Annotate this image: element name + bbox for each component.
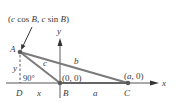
point-C-coordinates: (a, 0) <box>124 71 144 81</box>
label-A: A <box>9 44 16 54</box>
label-B: B <box>63 88 69 98</box>
label-side-c: c <box>43 58 47 68</box>
label-side-y: y <box>12 63 17 73</box>
x-axis-label: x <box>161 78 166 88</box>
label-C: C <box>124 88 131 98</box>
point-A <box>18 50 23 55</box>
y-axis-label: y <box>56 26 61 36</box>
right-angle-label: 90° <box>23 73 35 83</box>
y-axis-arrow-icon <box>58 38 63 46</box>
diagram-svg: x y (c cos B, c sin B) A D B C y x c b a <box>0 0 179 104</box>
point-A-coordinates: (c cos B, c sin B) <box>8 14 69 24</box>
label-D: D <box>15 88 23 98</box>
label-side-x: x <box>36 88 41 98</box>
law-of-cosines-diagram: x y (c cos B, c sin B) A D B C y x c b a <box>0 0 179 104</box>
label-side-a: a <box>93 88 98 98</box>
origin-label: (0, 0) <box>62 73 82 83</box>
label-side-b: b <box>74 56 79 66</box>
pointer-line <box>23 27 32 46</box>
point-C <box>126 81 131 86</box>
x-axis-arrow-icon <box>150 81 159 86</box>
